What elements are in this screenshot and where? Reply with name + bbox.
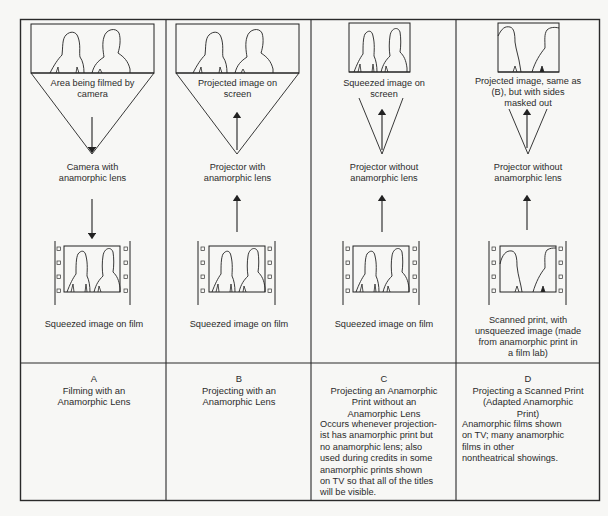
panel-d-film-label: Scanned print, with unsqueezed image (ma… [457,315,599,359]
panel-d-letter: D [457,373,599,385]
text-line: Anamorphic Lens [22,396,166,408]
text-line: masked out [457,98,599,109]
text-line: Projector without [457,162,599,173]
text-line: unsqueezed image (made [457,326,599,337]
text-line: Projected image on [176,78,299,89]
panel-c-device-label: Projector without anamorphic lens [312,162,456,184]
panel-d-screen-label: Projected image, same as (B), but with s… [457,76,599,109]
panel-c-caption: C Projecting an Anamorphic Print without… [312,373,456,419]
panel-d-caption: D Projecting a Scanned Print (Adapted An… [457,373,599,419]
panel-a-film-label: Squeezed image on film [22,319,166,330]
text-line: Projector without [312,162,456,173]
text-line: Print without an [312,396,456,408]
text-line: Projecting an Anamorphic [312,385,456,397]
text-line: a film lab) [457,348,599,359]
panel-c-screen-label: Squeezed image on screen [312,78,456,100]
text-line: will be visible. [320,487,456,498]
panel-b-screen-label: Projected image on screen [176,78,299,100]
panel-a-device-label: Camera with anamorphic lens [31,162,154,184]
text-line: used during credits in some [320,453,456,464]
text-line: Filming with an [22,385,166,397]
text-line: anamorphic lens [176,173,299,184]
text-line: Camera with [31,162,154,173]
text-line: Projecting with an [167,385,311,397]
text-line: camera [31,89,154,100]
panel-d-description: Anamorphic films shown on TV; many anamo… [462,419,598,465]
text-line: (Adapted Anamorphic [457,396,599,408]
panel-a-caption: A Filming with an Anamorphic Lens [22,373,166,408]
text-line: on TV so that all of the titles [320,476,456,487]
text-line: screen [312,89,456,100]
text-line: Anamorphic Lens [167,396,311,408]
panel-d-device-label: Projector without anamorphic lens [457,162,599,184]
text-line: Occurs whenever projection- [320,419,456,430]
panel-c-letter: C [312,373,456,385]
panel-a-screen-label: Area being filmed by camera [31,78,154,100]
text-line: ist has anamorphic print but [320,430,456,441]
text-line: Squeezed image on [312,78,456,89]
text-line: no anamorphic lens; also [320,442,456,453]
anamorphic-lens-diagram: Area being filmed by camera Camera with … [0,0,608,516]
text-line: Anamorphic films shown [462,419,598,430]
text-line: Projecting a Scanned Print [457,385,599,397]
panel-a-letter: A [22,373,166,385]
text-line: Area being filmed by [31,78,154,89]
panel-b-device-label: Projector with anamorphic lens [176,162,299,184]
panel-c-film-label: Squeezed image on film [312,319,456,330]
panel-c-description: Occurs whenever projection- ist has anam… [320,419,456,499]
text-line: Projector with [176,162,299,173]
text-line: Projected image, same as [457,76,599,87]
panel-b-letter: B [167,373,311,385]
text-line: screen [176,89,299,100]
text-line: anamorphic lens [31,173,154,184]
text-line: anamorphic lens [312,173,456,184]
text-line: nontheatrical showings. [462,453,598,464]
text-line: from anamorphic print in [457,337,599,348]
text-line: Anamorphic Lens [312,408,456,420]
text-line: films in other [462,442,598,453]
text-line: anamorphic prints shown [320,465,456,476]
panel-b-film-label: Squeezed image on film [167,319,311,330]
text-line: Scanned print, with [457,315,599,326]
panel-b-caption: B Projecting with an Anamorphic Lens [167,373,311,408]
text-line: on TV; many anamorphic [462,430,598,441]
text-line: Print) [457,408,599,420]
text-line: anamorphic lens [457,173,599,184]
text-line: (B), but with sides [457,87,599,98]
